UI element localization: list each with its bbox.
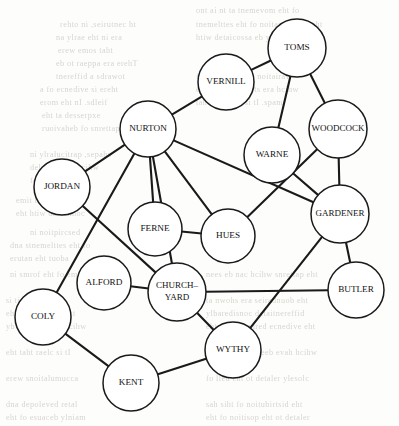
- node-label-gardener: GARDENER: [316, 208, 365, 218]
- graph-node-hues[interactable]: HUES: [201, 209, 255, 263]
- graph-edge-vernill-nurton: [171, 96, 202, 115]
- graph-edge-churchyard-butler: [205, 290, 328, 291]
- node-label-line: ALFORD: [86, 277, 123, 287]
- node-label-line: HUES: [216, 230, 240, 240]
- graph-node-wythy[interactable]: WYTHY: [205, 322, 261, 378]
- node-label-line: WYTHY: [216, 344, 251, 354]
- graph-edge-gardener-wythy: [250, 236, 323, 328]
- node-label-ferne: FERNE: [140, 223, 169, 233]
- graph-node-ferne[interactable]: FERNE: [128, 202, 182, 256]
- graph-edge-nurton-jordan: [85, 144, 126, 171]
- node-label-line: JORDAN: [44, 181, 81, 191]
- node-label-jordan: JORDAN: [44, 181, 81, 191]
- graph-edge-coly-kent: [65, 333, 109, 366]
- node-label-line: VERNILL: [206, 76, 246, 86]
- edges-group: [56, 60, 350, 374]
- node-label-line: BUTLER: [338, 284, 375, 294]
- node-label-nurton: NURTON: [129, 123, 167, 133]
- graph-edge-woodcock-gardener: [339, 157, 340, 185]
- node-label-toms: TOMS: [284, 42, 309, 52]
- node-label-line: KENT: [119, 377, 144, 387]
- node-label-line: WOODCOCK: [312, 123, 365, 133]
- graph-edge-gardener-butler: [346, 242, 351, 263]
- graph-node-butler[interactable]: BUTLER: [328, 262, 384, 318]
- node-label-line: WARNE: [256, 149, 289, 159]
- node-label-alford: ALFORD: [86, 277, 123, 287]
- graph-node-nurton[interactable]: NURTON: [120, 101, 176, 157]
- graph-node-woodcock[interactable]: WOODCOCK: [309, 100, 367, 158]
- graph-edge-churchyard-wythy: [197, 312, 214, 330]
- node-label-vernill: VERNILL: [206, 76, 246, 86]
- graph-node-jordan[interactable]: JORDAN: [34, 159, 90, 215]
- graph-node-churchyard[interactable]: CHURCH–YARD: [148, 263, 206, 321]
- network-diagram: ont ai nt ta tnemevom eht forehto ni ,se…: [0, 0, 399, 426]
- node-label-warne: WARNE: [256, 149, 289, 159]
- node-label-butler: BUTLER: [338, 284, 375, 294]
- graph-node-vernill[interactable]: VERNILL: [198, 54, 254, 110]
- graph-node-kent[interactable]: KENT: [103, 355, 159, 411]
- node-label-hues: HUES: [216, 230, 240, 240]
- graph-edge-toms-vernill: [251, 60, 272, 70]
- node-label-kent: KENT: [119, 377, 144, 387]
- graph-edge-ferne-hues: [181, 232, 201, 234]
- graph-edge-alford-churchyard: [130, 286, 149, 288]
- node-label-line: YARD: [165, 292, 190, 302]
- node-label-line: FERNE: [140, 223, 169, 233]
- graph-edge-kent-wythy: [157, 358, 207, 374]
- graph-edge-nurton-ferne: [150, 156, 153, 202]
- graph-canvas: TOMSVERNILLWOODCOCKNURTONWARNEJORDANGARD…: [0, 0, 399, 426]
- graph-edge-toms-woodcock: [310, 73, 325, 103]
- node-label-line: NURTON: [129, 123, 167, 133]
- graph-node-coly[interactable]: COLY: [15, 289, 71, 345]
- node-label-line: CHURCH–: [156, 280, 199, 290]
- node-label-line: COLY: [31, 311, 55, 321]
- node-label-line: GARDENER: [316, 208, 365, 218]
- node-label-wythy: WYTHY: [216, 344, 251, 354]
- graph-node-toms[interactable]: TOMS: [268, 19, 326, 77]
- nodes-group: TOMSVERNILLWOODCOCKNURTONWARNEJORDANGARD…: [15, 19, 384, 411]
- graph-edge-warne-gardener: [293, 173, 319, 195]
- graph-edge-nurton-hues: [164, 151, 212, 215]
- graph-node-alford[interactable]: ALFORD: [77, 256, 131, 310]
- graph-edge-toms-warne: [278, 76, 290, 129]
- graph-node-warne[interactable]: WARNE: [244, 127, 300, 183]
- node-label-coly: COLY: [31, 311, 55, 321]
- node-label-woodcock: WOODCOCK: [312, 123, 365, 133]
- graph-node-gardener[interactable]: GARDENER: [311, 185, 369, 243]
- node-label-line: TOMS: [284, 42, 309, 52]
